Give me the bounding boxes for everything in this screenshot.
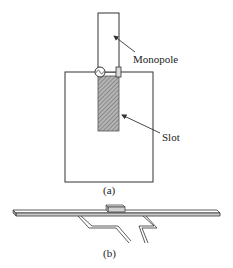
- strip-front: [16, 213, 220, 216]
- figure-b: (b): [13, 205, 220, 260]
- monopole-label: Monopole: [133, 53, 178, 65]
- right-trace: [139, 216, 157, 243]
- slot-label: Slot: [162, 131, 180, 143]
- figure-a: Monopole Slot (a): [65, 13, 180, 197]
- caption-b: (b): [103, 247, 116, 260]
- chip-block: [106, 205, 125, 212]
- slot: [98, 76, 119, 131]
- antenna-diagram: Monopole Slot (a) (b): [0, 0, 233, 268]
- ac-source-icon: [95, 67, 105, 77]
- caption-a: (a): [103, 184, 116, 197]
- slot-leader-arrow: [122, 115, 160, 133]
- left-trace: [78, 216, 131, 243]
- monopole: [98, 13, 119, 72]
- feed-connector: [116, 67, 121, 77]
